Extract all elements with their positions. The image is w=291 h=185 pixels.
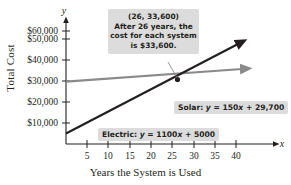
intersection-point — [175, 77, 180, 82]
intersection-callout: (26, 33,600) After 26 years, the cost fo… — [108, 9, 199, 54]
callout-line-1: (26, 33,600) — [110, 12, 197, 22]
y-axis-variable: y — [61, 5, 67, 16]
solar-equation-tail: + 29,700 — [246, 103, 284, 112]
electric-cost-line — [66, 44, 238, 134]
y-tick-label: $10,000 — [27, 118, 58, 128]
x-axis-title: Years the System is Used — [0, 166, 291, 178]
solar-equation-label: Solar: y = 150x + 29,700 — [174, 101, 288, 114]
callout-pointer — [168, 62, 178, 79]
solar-equation-rhs: = 150 — [213, 103, 238, 112]
x-tick-label: 35 — [210, 151, 220, 161]
y-tick-label: $60,000 — [27, 26, 58, 36]
electric-label-name: Electric: — [102, 130, 137, 139]
callout-line-4: is $33,600. — [110, 41, 197, 51]
x-tick-label: 10 — [103, 151, 113, 161]
y-tick-label: $20,000 — [27, 97, 58, 107]
y-tick-labels: $10,000 $20,000 $30,000 $40,000 $50,000 … — [27, 26, 58, 128]
electric-equation-lhs: y — [140, 130, 145, 139]
electric-equation-var: x — [177, 130, 182, 139]
y-tick-label: $40,000 — [27, 55, 58, 65]
x-axis-variable: x — [279, 138, 285, 149]
x-tick-label: 20 — [146, 151, 156, 161]
electric-equation-rhs: = 1100 — [147, 130, 177, 139]
x-tick-label: 5 — [85, 151, 90, 161]
x-tick-label: 30 — [189, 151, 199, 161]
solar-label-name: Solar: — [178, 103, 203, 112]
x-tick-labels: 5 10 15 20 25 30 35 40 — [85, 151, 241, 161]
callout-line-2: After 26 years, the — [110, 22, 197, 32]
electric-equation-label: Electric: y = 1100x + 5000 — [98, 128, 219, 141]
x-tick-label: 15 — [125, 151, 135, 161]
solar-equation-var: x — [238, 103, 243, 112]
electric-equation-tail: + 5000 — [185, 130, 215, 139]
y-axis-title: Total Cost — [4, 32, 16, 104]
solar-cost-line — [66, 69, 242, 82]
x-tick-label: 25 — [167, 151, 177, 161]
chart-canvas: $10,000 $20,000 $30,000 $40,000 $50,000 … — [0, 0, 291, 185]
callout-line-3: cost for each system — [110, 31, 197, 41]
solar-equation-lhs: y — [206, 103, 211, 112]
y-tick-label: $30,000 — [27, 76, 58, 86]
x-tick-label: 40 — [231, 151, 241, 161]
